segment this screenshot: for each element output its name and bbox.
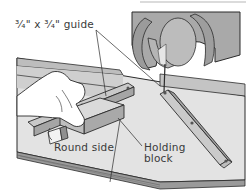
guide-label: ³⁄₄" x ³⁄₄" guide (15, 19, 94, 30)
holding-block-label: Holding block (144, 142, 194, 164)
round-side-label: Round side (54, 142, 114, 153)
illustration: ³⁄₄" x ³⁄₄" guide Round side Holding blo… (0, 0, 246, 193)
saw-upper-housing (132, 12, 240, 70)
